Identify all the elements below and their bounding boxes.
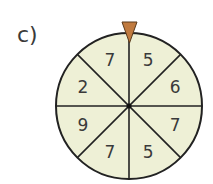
sector-value: 9 bbox=[77, 115, 88, 135]
sector-value: 7 bbox=[104, 50, 115, 70]
spinner-hub bbox=[127, 104, 132, 109]
sector-value: 7 bbox=[104, 142, 115, 162]
spinner: 56757927 bbox=[0, 0, 213, 184]
sector-value: 2 bbox=[77, 77, 88, 97]
sector-value: 5 bbox=[143, 142, 154, 162]
sector-value: 6 bbox=[170, 77, 181, 97]
sector-value: 7 bbox=[170, 115, 181, 135]
sector-value: 5 bbox=[143, 50, 154, 70]
